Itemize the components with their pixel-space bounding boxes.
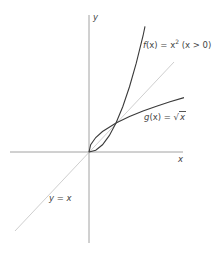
f-curve-label: f(x) = x2 (x > 0) (143, 41, 211, 50)
g-radicand: x (179, 111, 186, 122)
g-argument: (x) = (149, 112, 173, 122)
y-axis-label: y (93, 13, 98, 22)
parabola-curve (89, 26, 145, 152)
identity-line-label: y = x (49, 194, 72, 203)
g-curve-label: g(x) = √x (144, 113, 186, 122)
f-argument: (x) = x (146, 40, 175, 50)
x-axis-label: x (178, 155, 183, 164)
f-condition: (x > 0) (179, 40, 211, 50)
identity-line (15, 62, 174, 231)
